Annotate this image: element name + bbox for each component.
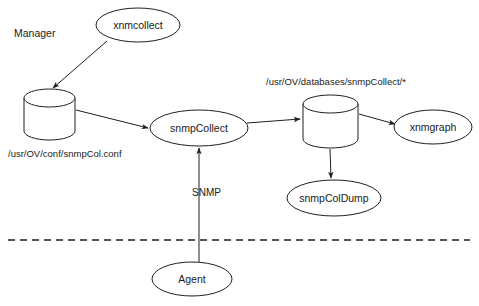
caption-snmpcol-conf-path: /usr/OV/conf/snmpCol.conf [8,148,122,159]
node-agent[interactable]: Agent [152,262,232,296]
node-xnmcollect[interactable]: xnmcollect [96,8,180,42]
xnmgraph-label: xnmgraph [410,121,457,133]
node-xnmgraph[interactable]: xnmgraph [394,110,472,144]
node-snmpcollect[interactable]: snmpCollect [150,110,248,146]
xnmcollect-label: xnmcollect [113,19,163,31]
zone-label-manager: Manager [14,27,56,39]
snmpcol-conf-db-cylinder-top [24,89,75,107]
agent-label: Agent [178,273,206,285]
edge-conf-db-to-snmpcollect [76,110,148,128]
edge-db-to-xnmgraph [359,114,395,124]
edge-db-to-snmpcoldump [330,149,331,178]
node-snmpcollect-db[interactable] [303,95,358,148]
flow-diagram: xnmcollect snmpCollect xnmgraph [0,0,479,306]
snmpcollect-db-cylinder-top [303,95,358,113]
node-snmpcol-conf-db[interactable] [24,89,75,140]
edge-xnmcollect-to-conf-db [53,41,107,88]
node-snmpcoldump[interactable]: snmpColDump [287,180,381,216]
caption-snmpcollect-db-path: /usr/OV/databases/snmpCollect/* [266,76,406,87]
edge-label-snmp: SNMP [192,187,221,198]
snmpcollect-label: snmpCollect [170,122,228,134]
diagram-canvas-container: xnmcollect snmpCollect xnmgraph [0,0,479,306]
edge-snmpcollect-to-db [247,119,300,123]
snmpcoldump-label: snmpColDump [299,192,369,204]
